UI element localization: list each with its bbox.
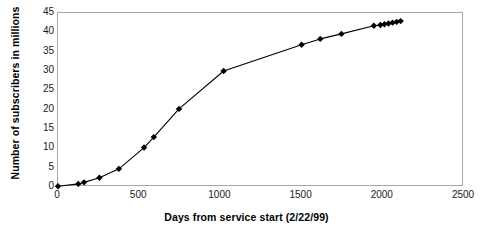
x-tick-label: 2500 [438,190,488,200]
chart-figure: 051015202530354045 05001000150020002500 … [0,0,493,235]
data-point-marker [371,23,377,29]
data-markers [55,18,404,190]
y-axis-title-wrapper: Number of subscribers in millions [9,0,25,188]
x-tick-label: 0 [32,190,82,200]
y-tick-label: 10 [28,142,54,152]
plot-area [57,12,463,186]
data-point-marker [397,18,403,24]
x-tick-label: 1000 [194,190,244,200]
x-tick-label: 2000 [357,190,407,200]
x-axis-title: Days from service start (2/22/99) [0,211,493,223]
y-tick-label: 25 [28,84,54,94]
y-tick-label: 40 [28,26,54,36]
data-point-marker [81,179,87,185]
y-tick-label: 5 [28,162,54,172]
y-tick-label: 20 [28,104,54,114]
y-tick-label: 15 [28,123,54,133]
data-line [58,21,401,186]
data-point-marker [338,31,344,37]
y-tick-label: 45 [28,7,54,17]
x-tick-label: 1500 [276,190,326,200]
data-point-marker [317,36,323,42]
y-tick-label: 35 [28,46,54,56]
data-point-marker [75,181,81,187]
plot-svg [58,13,464,187]
data-point-marker [96,175,102,181]
x-tick-label: 500 [113,190,163,200]
y-tick-label: 30 [28,65,54,75]
data-point-marker [298,42,304,48]
y-axis-title: Number of subscribers in millions [9,0,21,188]
